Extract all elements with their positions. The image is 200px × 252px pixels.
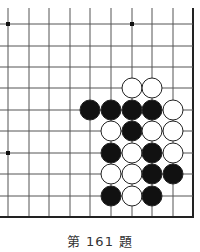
black-stone (101, 186, 121, 206)
white-stone (122, 186, 142, 206)
problem-caption: 第 161 題 (0, 231, 200, 250)
white-stone (163, 100, 183, 120)
white-stone (101, 164, 121, 184)
white-stone (122, 78, 142, 98)
white-stone (122, 164, 142, 184)
black-stone (142, 186, 162, 206)
white-stone (163, 143, 183, 163)
white-stone (101, 121, 121, 141)
go-board[interactable] (0, 0, 200, 225)
star-point (130, 22, 134, 26)
white-stone (122, 143, 142, 163)
black-stone (142, 143, 162, 163)
white-stone (142, 78, 162, 98)
star-point (6, 151, 10, 155)
black-stone (142, 100, 162, 120)
star-point (6, 22, 10, 26)
black-stone (101, 100, 121, 120)
black-stone (122, 100, 142, 120)
black-stone (80, 100, 100, 120)
black-stone (142, 164, 162, 184)
black-stone (101, 143, 121, 163)
black-stone (122, 121, 142, 141)
black-stone (163, 164, 183, 184)
white-stone (142, 121, 162, 141)
white-stone (163, 121, 183, 141)
